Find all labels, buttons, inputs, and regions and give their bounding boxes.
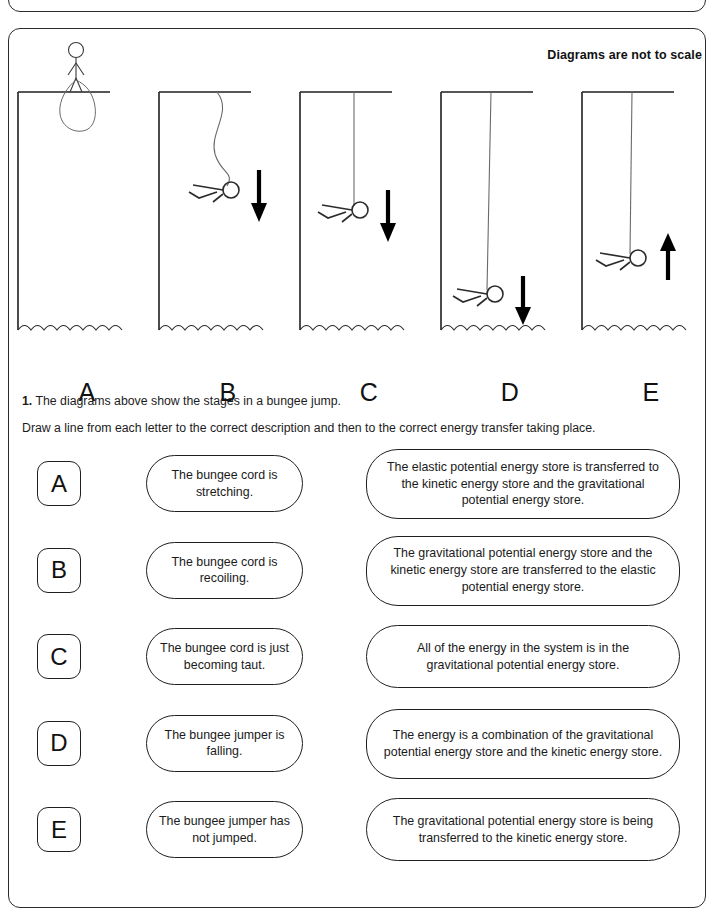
letter-box-b[interactable]: B — [37, 548, 81, 593]
stick-figure-falling — [318, 202, 368, 222]
letter-box-label: C — [50, 643, 67, 671]
stick-figure-falling — [189, 182, 239, 202]
coiled-bungee-cord — [60, 80, 96, 131]
down-arrow — [251, 170, 267, 222]
description-text: The bungee jumper is falling. — [157, 727, 292, 760]
match-row: E The bungee jumper has not jumped. The … — [0, 798, 716, 885]
description-box-3[interactable]: The bungee cord is just becoming taut. — [146, 628, 303, 685]
energy-transfer-text: The elastic potential energy store is tr… — [383, 459, 663, 509]
energy-transfer-box-5[interactable]: The gravitational potential energy store… — [366, 798, 680, 861]
energy-transfer-text: The energy is a combination of the gravi… — [383, 727, 663, 760]
letter-box-label: B — [51, 556, 67, 584]
water-line — [18, 326, 122, 331]
letter-box-c[interactable]: C — [37, 634, 81, 679]
energy-transfer-box-4[interactable]: The energy is a combination of the gravi… — [366, 709, 680, 779]
description-text: The bungee cord is stretching. — [157, 467, 292, 500]
energy-transfer-text: All of the energy in the system is in th… — [383, 640, 663, 673]
question-instruction: Draw a line from each letter to the corr… — [22, 420, 595, 437]
diagram-a: A — [14, 40, 160, 380]
match-row: C The bungee cord is just becoming taut.… — [0, 625, 716, 712]
stick-figure-falling — [453, 286, 503, 306]
water-line — [441, 326, 545, 331]
description-box-5[interactable]: The bungee jumper has not jumped. — [146, 801, 303, 858]
energy-transfer-text: The gravitational potential energy store… — [383, 545, 663, 595]
description-text: The bungee cord is recoiling. — [157, 554, 292, 587]
diagram-e: E — [578, 40, 716, 380]
energy-transfer-box-3[interactable]: All of the energy in the system is in th… — [366, 625, 680, 688]
down-arrow — [515, 276, 531, 325]
diagram-c: C — [296, 40, 442, 380]
description-box-1[interactable]: The bungee cord is stretching. — [146, 455, 303, 512]
diagram-b: B — [155, 40, 301, 380]
question-statement: 1. The diagrams above show the stages in… — [22, 393, 341, 410]
letter-box-label: D — [50, 729, 67, 757]
description-text: The bungee jumper has not jumped. — [157, 813, 292, 846]
diagram-d: D — [437, 40, 583, 380]
match-row: B The bungee cord is recoiling. The grav… — [0, 539, 716, 626]
question-text-line-1: The diagrams above show the stages in a … — [35, 394, 341, 408]
matching-activity: A The bungee cord is stretching. The ela… — [0, 452, 716, 885]
water-line — [300, 326, 404, 331]
water-line — [582, 326, 686, 331]
match-row: A The bungee cord is stretching. The ela… — [0, 452, 716, 539]
diagram-label-e: E — [578, 378, 716, 407]
header-panel — [8, 0, 706, 12]
up-arrow — [660, 233, 676, 280]
stick-figure-rising — [596, 250, 646, 270]
letter-box-label: A — [51, 470, 67, 498]
letter-box-a[interactable]: A — [37, 461, 81, 506]
description-box-4[interactable]: The bungee jumper is falling. — [146, 715, 303, 772]
question-number: 1. — [22, 394, 32, 408]
energy-transfer-text: The gravitational potential energy store… — [383, 813, 663, 846]
letter-box-label: E — [51, 816, 67, 844]
energy-transfer-box-1[interactable]: The elastic potential energy store is tr… — [366, 449, 680, 519]
description-text: The bungee cord is just becoming taut. — [157, 640, 292, 673]
bungee-stage-diagrams: A B — [0, 40, 716, 380]
diagram-label-d: D — [437, 378, 583, 407]
recoiling-bungee-cord — [630, 92, 632, 254]
energy-transfer-box-2[interactable]: The gravitational potential energy store… — [366, 536, 680, 606]
letter-box-d[interactable]: D — [37, 721, 81, 766]
match-row: D The bungee jumper is falling. The ener… — [0, 712, 716, 799]
down-arrow — [380, 190, 396, 242]
stretched-bungee-cord — [487, 92, 491, 290]
description-box-2[interactable]: The bungee cord is recoiling. — [146, 542, 303, 599]
water-line — [159, 326, 263, 331]
letter-box-e[interactable]: E — [37, 807, 81, 852]
slack-bungee-cord — [214, 92, 229, 186]
